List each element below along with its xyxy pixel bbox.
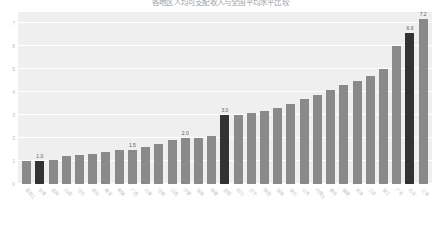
x-axis-tick-label: 福建 — [341, 188, 350, 197]
bar-slot[interactable] — [311, 12, 324, 184]
x-axis-category: 福建 — [337, 186, 350, 234]
x-axis-category: 湖南 — [271, 186, 284, 234]
x-axis-tick-label: 陕西 — [261, 188, 270, 197]
bar[interactable] — [101, 152, 110, 184]
bar[interactable] — [392, 46, 401, 184]
bar[interactable] — [366, 76, 375, 184]
y-axis: 01234567 — [0, 12, 18, 184]
bar[interactable] — [168, 140, 177, 184]
x-axis-tick-label: 湖南 — [274, 188, 283, 197]
bar-highlighted[interactable] — [405, 33, 414, 184]
x-axis-category: 全国 — [218, 186, 231, 234]
bar-slot[interactable] — [113, 12, 126, 184]
bar-slot[interactable] — [152, 12, 165, 184]
x-axis-category: 江苏 — [364, 186, 377, 234]
x-axis-tick-label: 江西 — [169, 188, 178, 197]
bar-slot[interactable] — [390, 12, 403, 184]
bar-slot[interactable]: 3.0 — [218, 12, 231, 184]
x-axis-tick-label: 吉林 — [50, 188, 59, 197]
bar[interactable] — [75, 155, 84, 184]
x-axis-tick-label: 青海 — [103, 188, 112, 197]
x-axis-tick-label: 辽宁 — [248, 188, 257, 197]
bar-slot[interactable] — [245, 12, 258, 184]
bar-slot[interactable] — [298, 12, 311, 184]
y-axis-tick-label: 0 — [12, 182, 15, 187]
x-axis: 黑龙江甘肃吉林山西河北贵州青海新疆广西云南河南江西宁夏海南安徽全国四川辽宁陕西湖… — [18, 186, 432, 234]
x-axis-tick-label: 宁夏 — [182, 188, 191, 197]
bar[interactable] — [194, 138, 203, 184]
bar[interactable] — [49, 160, 58, 184]
bar-slot[interactable] — [46, 12, 59, 184]
bar-slot[interactable] — [99, 12, 112, 184]
x-axis-category: 安徽 — [205, 186, 218, 234]
x-axis-tick-label: 北京 — [407, 188, 416, 197]
bar-slot[interactable] — [73, 12, 86, 184]
bar[interactable] — [128, 150, 137, 184]
bar-slot[interactable] — [192, 12, 205, 184]
x-axis-category: 北京 — [403, 186, 416, 234]
y-axis-tick-label: 7 — [12, 21, 15, 26]
bar-slot[interactable] — [139, 12, 152, 184]
y-axis-tick-label: 2 — [12, 136, 15, 141]
bar[interactable] — [181, 138, 190, 184]
bar-slot[interactable] — [20, 12, 33, 184]
bar-slot[interactable]: 1.5 — [126, 12, 139, 184]
bar[interactable] — [326, 90, 335, 184]
bar[interactable] — [353, 81, 362, 184]
x-axis-tick-label: 海南 — [195, 188, 204, 197]
bar-slot[interactable] — [324, 12, 337, 184]
bar-slot[interactable] — [337, 12, 350, 184]
x-axis-tick-label: 江苏 — [367, 188, 376, 197]
bar[interactable] — [141, 147, 150, 184]
x-axis-tick-label: 河南 — [156, 188, 165, 197]
x-axis-tick-label: 全国 — [222, 188, 231, 197]
bar-value-label: 3.0 — [221, 108, 228, 113]
bar-slot[interactable] — [377, 12, 390, 184]
x-axis-category: 海南 — [192, 186, 205, 234]
bar-slot[interactable] — [284, 12, 297, 184]
bar-slot[interactable] — [232, 12, 245, 184]
bar[interactable] — [419, 19, 428, 184]
bar-slot[interactable] — [60, 12, 73, 184]
x-axis-tick-label: 广东 — [393, 188, 402, 197]
x-axis-category: 广东 — [390, 186, 403, 234]
bar-value-label: 7.2 — [420, 12, 427, 17]
bar[interactable] — [260, 111, 269, 184]
bar-highlighted[interactable] — [35, 161, 44, 184]
bar[interactable] — [379, 69, 388, 184]
x-axis-category: 天津 — [350, 186, 363, 234]
bar-slot[interactable] — [258, 12, 271, 184]
y-axis-tick-label: 6 — [12, 44, 15, 49]
bar[interactable] — [300, 99, 309, 184]
chart-title: 各地区人均可支配收入与全国平均水平比较 — [0, 0, 441, 7]
x-axis-category: 广西 — [126, 186, 139, 234]
bar[interactable] — [154, 144, 163, 184]
bar-highlighted[interactable] — [220, 115, 229, 184]
bar-slot[interactable]: 2.0 — [179, 12, 192, 184]
bar-slot[interactable]: 7.2 — [417, 12, 430, 184]
bar[interactable] — [207, 136, 216, 184]
bar-slot[interactable]: 1.0 — [33, 12, 46, 184]
bar-slot[interactable]: 6.6 — [403, 12, 416, 184]
bar[interactable] — [247, 113, 256, 184]
x-axis-category: 宁夏 — [179, 186, 192, 234]
bar-slot[interactable] — [86, 12, 99, 184]
bar[interactable] — [115, 150, 124, 184]
bar[interactable] — [62, 156, 71, 184]
bar[interactable] — [339, 85, 348, 184]
bar[interactable] — [313, 95, 322, 184]
x-axis-tick-label: 甘肃 — [37, 188, 46, 197]
bar-slot[interactable] — [271, 12, 284, 184]
bar[interactable] — [286, 104, 295, 184]
bar[interactable] — [22, 161, 31, 184]
bar-slot[interactable] — [165, 12, 178, 184]
bar-slot[interactable] — [364, 12, 377, 184]
bar[interactable] — [273, 108, 282, 184]
bar[interactable] — [234, 115, 243, 184]
bar-slot[interactable] — [205, 12, 218, 184]
x-axis-category: 河南 — [152, 186, 165, 234]
x-axis-tick-label: 浙江 — [380, 188, 389, 197]
x-axis-tick-label: 山西 — [63, 188, 72, 197]
bar-slot[interactable] — [350, 12, 363, 184]
bar[interactable] — [88, 154, 97, 184]
